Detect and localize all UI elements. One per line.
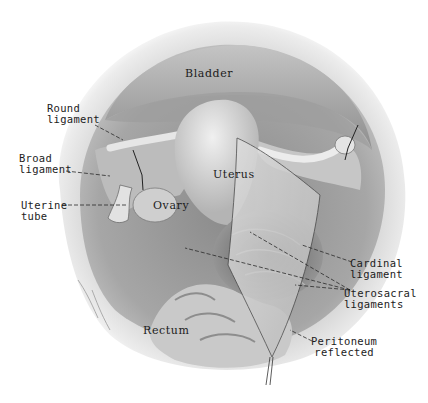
label-ovary: Ovary (153, 200, 189, 211)
label-peritoneum-reflected: Peritoneum reflected (311, 336, 377, 358)
label-uterine-tube: Uterine tube (21, 200, 67, 222)
label-rectum: Rectum (143, 325, 190, 336)
label-round-ligament: Round ligament (47, 103, 100, 125)
label-uterus: Uterus (213, 169, 255, 180)
label-uterosacral-ligaments: Uterosacral ligaments (344, 288, 417, 310)
label-broad-ligament: Broad ligament (19, 153, 72, 175)
anatomical-illustration: Bladder Round ligament Broad ligament Ut… (0, 0, 428, 403)
label-cardinal-ligament: Cardinal ligament (350, 258, 403, 280)
label-bladder: Bladder (185, 68, 233, 79)
